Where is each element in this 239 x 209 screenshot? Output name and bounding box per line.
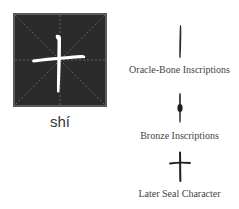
character-box xyxy=(13,13,107,107)
oracle-bone-glyph-icon xyxy=(175,24,185,60)
script-seal: Later Seal Character xyxy=(120,151,239,200)
seal-glyph-icon xyxy=(168,151,192,183)
bronze-glyph-icon xyxy=(175,92,185,126)
character-shi-icon xyxy=(15,15,105,105)
pinyin-label: shí xyxy=(13,113,107,131)
script-label-bronze: Bronze Inscriptions xyxy=(120,130,239,142)
script-bronze: Bronze Inscriptions xyxy=(120,92,239,142)
script-oracle-bone: Oracle-Bone Inscriptions xyxy=(120,24,239,76)
script-label-oracle-bone: Oracle-Bone Inscriptions xyxy=(120,64,239,76)
script-label-seal: Later Seal Character xyxy=(120,188,239,200)
